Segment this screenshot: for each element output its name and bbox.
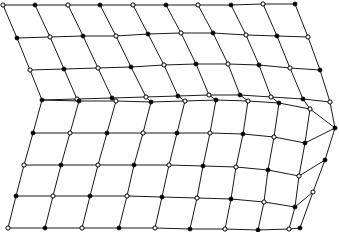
mesh-node-filled [59,163,63,167]
mesh-node-open [196,3,200,7]
mesh-node-filled [194,62,198,66]
mesh-node-open [272,135,276,139]
mesh-node-filled [98,3,102,7]
mesh-node-filled [43,226,47,230]
mesh-node-open [51,194,55,198]
mesh-node-filled [77,99,81,103]
mesh-node-open [226,62,230,66]
mesh-node-open [297,174,301,178]
mesh-node-filled [229,197,233,201]
mesh-node-open [28,68,32,72]
mesh-node-filled [303,141,307,145]
mesh-node-filled [14,194,18,198]
mesh-node-open [234,165,238,169]
mesh-node-filled [257,63,261,67]
mesh-node-open [246,99,250,103]
mesh-node-filled [88,194,92,198]
mesh-node-open [208,131,212,135]
mesh-node-open [96,66,100,70]
mesh-node-filled [40,98,44,102]
mesh-node-open [1,3,5,7]
mesh-node-filled [146,32,150,36]
mesh-node-filled [81,34,85,38]
mesh-node-open [125,194,129,198]
mesh-node-open [328,100,332,104]
mesh-node-filled [318,68,322,72]
mesh-node-open [162,63,166,67]
mesh-node-filled [201,164,205,168]
mesh-node-filled [275,34,279,38]
mesh-node-filled [160,195,164,199]
mesh-node-filled [176,94,180,98]
mesh-node-open [96,163,100,167]
mesh-node-open [288,66,292,70]
mesh-node-open [262,200,266,204]
mesh-node-filled [293,205,297,209]
mesh-diagram [0,0,339,232]
mesh-node-filled [132,163,136,167]
mesh-node-filled [15,36,19,40]
mesh-node-filled [256,228,260,232]
mesh-node-open [311,190,315,194]
mesh-node-filled [333,126,337,130]
mesh-node-open [22,163,26,167]
mesh-node-filled [175,131,179,135]
mesh-node-open [80,226,84,230]
mesh-node-filled [164,3,168,7]
mesh-node-open [141,131,145,135]
mesh-node-open [306,35,310,39]
mesh-node-open [261,2,265,6]
mesh-node-filled [301,97,305,101]
mesh-node-open [66,3,70,7]
mesh-node-open [244,33,248,37]
mesh-node-filled [62,67,66,71]
mesh-node-open [114,99,118,103]
mesh-node-filled [149,100,153,104]
mesh-node-open [6,226,10,230]
mesh-node-filled [298,226,302,230]
mesh-node-open [167,163,171,167]
mesh-node-filled [238,93,242,97]
mesh-node-open [68,131,72,135]
mesh-node-filled [188,227,192,231]
mesh-figure [0,0,339,232]
mesh-node-filled [211,31,215,35]
mesh-node-open [153,226,157,230]
mesh-node-open [223,227,227,231]
mesh-node-open [179,31,183,35]
mesh-node-filled [105,131,109,135]
mesh-node-open [308,107,312,111]
mesh-node-open [207,93,211,97]
mesh-node-open [195,196,199,200]
mesh-node-open [114,34,118,38]
mesh-node-filled [129,65,133,69]
mesh-node-open [131,3,135,7]
mesh-node-open [287,227,291,231]
mesh-node-open [144,95,148,99]
mesh-node-filled [229,3,233,7]
mesh-node-filled [266,168,270,172]
mesh-node-filled [277,101,281,105]
mesh-node-filled [33,3,37,7]
mesh-node-filled [31,131,35,135]
mesh-node-open [183,99,187,103]
mesh-node-filled [293,2,297,6]
mesh-node-filled [117,226,121,230]
mesh-node-filled [323,158,327,162]
mesh-node-filled [214,98,218,102]
mesh-node-filled [110,96,114,100]
mesh-node-open [48,35,52,39]
mesh-node-filled [241,132,245,136]
mesh-node-open [269,95,273,99]
